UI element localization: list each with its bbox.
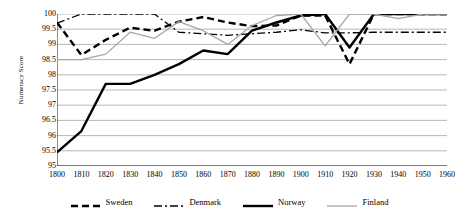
y-tick-label: 99.5: [42, 25, 56, 33]
legend-swatch-denmark-icon: [154, 197, 184, 207]
legend-swatch-norway-icon: [243, 197, 273, 207]
series-line-finland: [57, 14, 447, 60]
y-tick-label: 100: [44, 10, 56, 18]
x-tick-label: 1920: [342, 170, 358, 179]
x-tick-label: 1950: [415, 170, 431, 179]
y-tick-label: 96.5: [42, 116, 56, 124]
legend-label: Norway: [278, 198, 305, 207]
legend-label: Denmark: [189, 198, 221, 207]
series-line-sweden: [57, 14, 447, 64]
x-tick-label: 1870: [220, 170, 236, 179]
plot-area: [57, 14, 447, 166]
x-tick-label: 1810: [73, 170, 89, 179]
x-tick-label: 1960: [439, 170, 455, 179]
x-tick-label: 1840: [147, 170, 163, 179]
legend-item-norway[interactable]: Norway: [243, 197, 305, 207]
x-axis-tick-labels: 1800181018201830184018501860187018801890…: [57, 170, 447, 184]
x-tick-label: 1880: [244, 170, 260, 179]
plot-svg: [57, 14, 447, 166]
x-tick-label: 1930: [366, 170, 382, 179]
y-tick-label: 95: [48, 162, 56, 170]
x-tick-label: 1800: [49, 170, 65, 179]
legend-item-finland[interactable]: Finland: [327, 197, 388, 207]
legend-label: Finland: [362, 198, 388, 207]
data-series: [57, 14, 447, 152]
legend-swatch-sweden-icon: [71, 197, 101, 207]
y-tick-label: 95.5: [42, 147, 56, 155]
x-tick-label: 1820: [98, 170, 114, 179]
legend-label: Sweden: [106, 198, 133, 207]
legend-item-denmark[interactable]: Denmark: [154, 197, 221, 207]
legend-swatch-finland-icon: [327, 197, 357, 207]
x-tick-label: 1940: [390, 170, 406, 179]
y-tick-label: 97.5: [42, 86, 56, 94]
chart-legend: SwedenDenmarkNorwayFinland: [0, 193, 459, 211]
legend-item-sweden[interactable]: Sweden: [71, 197, 133, 207]
y-axis-tick-labels: 10099.59998.59897.59796.59695.595: [20, 0, 56, 218]
y-tick-label: 96: [48, 132, 56, 140]
x-tick-label: 1890: [268, 170, 284, 179]
gridlines: [57, 14, 447, 166]
y-tick-label: 98.5: [42, 56, 56, 64]
x-tick-label: 1830: [122, 170, 138, 179]
numeracy-score-line-chart: Numeracy Score 10099.59998.59897.59796.5…: [0, 0, 459, 218]
x-tick-label: 1850: [171, 170, 187, 179]
x-tick-label: 1860: [195, 170, 211, 179]
y-tick-label: 97: [48, 101, 56, 109]
x-tick-label: 1900: [293, 170, 309, 179]
x-tick-label: 1910: [317, 170, 333, 179]
y-tick-label: 99: [48, 40, 56, 48]
y-tick-label: 98: [48, 71, 56, 79]
